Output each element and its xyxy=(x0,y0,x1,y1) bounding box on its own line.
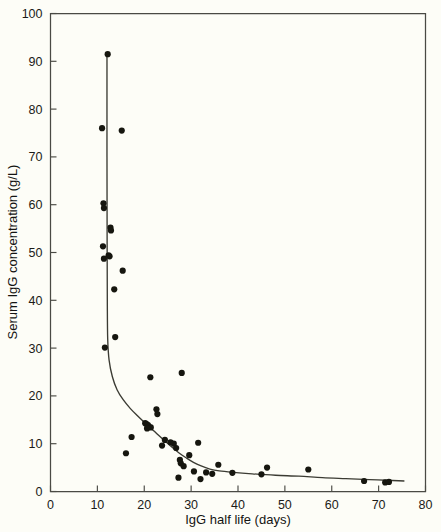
data-point xyxy=(128,434,134,440)
data-point xyxy=(144,425,150,431)
data-point xyxy=(112,334,118,340)
data-point xyxy=(175,475,181,481)
data-point xyxy=(191,468,197,474)
data-point xyxy=(159,443,165,449)
data-point xyxy=(99,125,105,131)
data-point xyxy=(111,286,117,292)
data-point xyxy=(173,445,179,451)
data-point xyxy=(386,479,392,485)
data-point xyxy=(106,253,112,259)
y-tick-label: 40 xyxy=(29,294,43,308)
data-point xyxy=(195,440,201,446)
y-tick-label: 60 xyxy=(29,198,43,212)
data-point xyxy=(197,476,203,482)
data-point xyxy=(105,51,111,57)
data-point xyxy=(181,463,187,469)
data-point xyxy=(361,478,367,484)
x-tick-label: 30 xyxy=(184,498,198,512)
data-point xyxy=(101,205,107,211)
data-point xyxy=(162,437,168,443)
y-tick-label: 100 xyxy=(22,7,43,21)
data-point xyxy=(119,128,125,134)
data-point xyxy=(123,450,129,456)
x-axis-tick-labels: 01020304050607080 xyxy=(47,498,432,512)
data-point xyxy=(258,471,264,477)
data-point xyxy=(215,462,221,468)
y-tick-label: 80 xyxy=(29,103,43,117)
x-tick-label: 80 xyxy=(419,498,433,512)
x-tick-label: 60 xyxy=(325,498,339,512)
data-point xyxy=(264,465,270,471)
data-point xyxy=(147,374,153,380)
x-tick-label: 0 xyxy=(47,498,54,512)
data-point xyxy=(102,345,108,351)
x-tick-label: 10 xyxy=(90,498,104,512)
chart-figure: 01020304050607080 0102030405060708090100… xyxy=(0,0,441,532)
y-tick-label: 90 xyxy=(29,55,43,69)
data-point xyxy=(179,370,185,376)
data-point xyxy=(100,243,106,249)
x-axis-title: IgG half life (days) xyxy=(185,512,291,527)
x-tick-label: 50 xyxy=(278,498,292,512)
data-point xyxy=(120,268,126,274)
data-point xyxy=(229,470,235,476)
data-point xyxy=(108,227,114,233)
x-tick-label: 20 xyxy=(137,498,151,512)
y-axis-tick-labels: 0102030405060708090100 xyxy=(22,7,43,499)
y-axis-title: Serum IgG concentration (g/L) xyxy=(5,165,20,340)
data-point xyxy=(209,471,215,477)
y-tick-label: 10 xyxy=(29,437,43,451)
data-point xyxy=(101,256,107,262)
data-point xyxy=(305,466,311,472)
data-point xyxy=(203,469,209,475)
y-tick-label: 0 xyxy=(36,485,43,499)
fit-curve-group xyxy=(107,54,404,481)
x-tick-label: 40 xyxy=(231,498,245,512)
y-tick-label: 50 xyxy=(29,246,43,260)
data-point xyxy=(186,452,192,458)
y-tick-label: 30 xyxy=(29,342,43,356)
data-point xyxy=(154,411,160,417)
x-tick-label: 70 xyxy=(372,498,386,512)
scatter-plot: 01020304050607080 0102030405060708090100… xyxy=(0,0,441,532)
y-tick-label: 70 xyxy=(29,150,43,164)
y-tick-label: 20 xyxy=(29,389,43,403)
